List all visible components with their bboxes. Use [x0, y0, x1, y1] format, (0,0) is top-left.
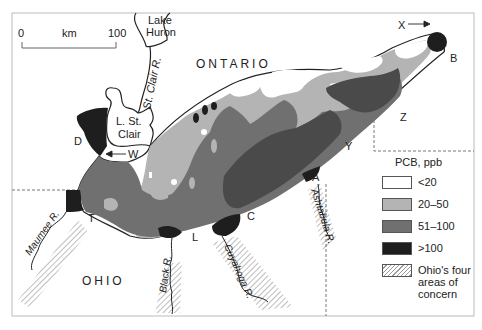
legend-swatch-medium-gray	[382, 220, 412, 233]
svg-text:Clair: Clair	[118, 128, 141, 140]
svg-text:W: W	[128, 148, 139, 160]
legend-swatch-dark	[382, 242, 412, 255]
legend-item-51-100: 51–100	[382, 220, 477, 242]
svg-text:L. St.: L. St.	[116, 115, 142, 127]
svg-text:Z: Z	[400, 111, 407, 123]
legend-item-lt20: <20	[382, 176, 477, 198]
legend-item-areas-of-concern: Ohio's four areas of concern	[382, 264, 477, 292]
legend: PCB, ppb <20 20–50 51–100 >100 Ohio's fo…	[382, 156, 477, 292]
svg-text:D: D	[74, 135, 82, 147]
legend-title: PCB, ppb	[395, 156, 477, 168]
svg-text:Lake: Lake	[148, 14, 172, 26]
svg-text:L: L	[192, 231, 198, 243]
legend-item-gt100: >100	[382, 242, 477, 264]
svg-text:0: 0	[18, 27, 24, 39]
svg-text:C: C	[247, 210, 255, 222]
svg-text:T: T	[88, 212, 95, 224]
svg-text:B: B	[450, 52, 457, 64]
legend-swatch-white	[382, 176, 412, 189]
svg-text:100: 100	[108, 27, 126, 39]
svg-text:Huron: Huron	[146, 26, 176, 38]
legend-swatch-hatched	[382, 264, 412, 277]
svg-text:A: A	[312, 171, 320, 183]
svg-text:OHIO: OHIO	[82, 274, 125, 288]
svg-text:ONTARIO: ONTARIO	[196, 57, 271, 71]
legend-swatch-light-gray	[382, 198, 412, 211]
svg-text:X: X	[398, 19, 406, 31]
svg-text:km: km	[62, 27, 77, 39]
svg-text:Y: Y	[345, 140, 353, 152]
legend-item-20-50: 20–50	[382, 198, 477, 220]
